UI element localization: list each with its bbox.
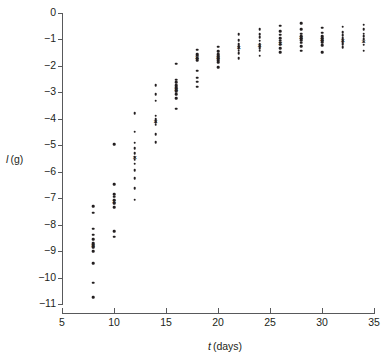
data-point	[154, 93, 157, 96]
x-tick-label: 5	[42, 317, 82, 327]
data-point	[92, 205, 95, 208]
y-tick-label: −9	[26, 245, 56, 255]
group-mean-marker	[360, 37, 367, 44]
x-axis-title: t (days)	[190, 340, 260, 352]
data-point	[92, 227, 95, 230]
y-tick	[58, 304, 62, 305]
x-tick	[62, 308, 63, 313]
data-point	[238, 33, 241, 36]
y-tick-label: −6	[26, 166, 56, 176]
y-tick	[58, 172, 62, 173]
data-point	[196, 69, 199, 72]
y-tick-label: −7	[26, 192, 56, 202]
x-tick-label: 30	[302, 317, 342, 327]
data-point	[113, 143, 116, 146]
x-axis-line	[62, 313, 375, 314]
group-mean-marker	[215, 54, 222, 61]
x-tick-label: 10	[94, 317, 134, 327]
data-point	[134, 187, 137, 190]
data-point	[134, 130, 137, 133]
data-point	[92, 282, 95, 285]
group-mean-marker	[339, 36, 346, 43]
data-point	[196, 80, 199, 83]
group-mean-marker	[111, 197, 118, 204]
group-mean-marker	[194, 53, 201, 60]
y-tick-label: −3	[26, 86, 56, 96]
data-point	[134, 141, 137, 144]
data-point	[362, 28, 365, 31]
data-point	[279, 51, 282, 54]
data-point	[175, 97, 178, 100]
group-mean-marker	[235, 44, 242, 51]
group-mean-marker	[90, 242, 97, 249]
group-mean-marker	[256, 42, 263, 49]
y-tick	[58, 251, 62, 252]
y-tick-label: −5	[26, 139, 56, 149]
y-axis-unit: (g)	[10, 153, 23, 165]
group-mean-marker	[131, 154, 138, 161]
data-point	[113, 235, 116, 238]
data-point	[342, 46, 345, 49]
data-point	[362, 24, 365, 27]
x-tick-label: 25	[250, 317, 290, 327]
data-point	[238, 57, 241, 60]
x-axis-symbol: t	[208, 340, 211, 352]
data-point	[134, 177, 137, 180]
data-point	[154, 100, 157, 103]
y-tick-label: −8	[26, 219, 56, 229]
y-tick	[58, 13, 62, 14]
data-point	[196, 77, 199, 80]
y-tick	[58, 145, 62, 146]
data-point	[342, 25, 345, 28]
y-axis-line	[62, 13, 63, 305]
x-tick	[322, 308, 323, 313]
scatter-plot-figure: 0−1−2−3−4−5−6−7−8−9−10−115101520253035l …	[0, 0, 387, 360]
data-point	[300, 49, 303, 52]
data-point	[362, 49, 365, 52]
data-point	[113, 230, 116, 233]
group-mean-marker	[173, 86, 180, 93]
data-point	[217, 66, 220, 69]
y-tick-label: −2	[26, 60, 56, 70]
data-point	[134, 198, 137, 201]
x-tick	[166, 308, 167, 313]
data-point	[134, 162, 137, 165]
data-point	[175, 62, 178, 65]
data-point	[134, 169, 137, 172]
data-point	[154, 84, 157, 87]
x-tick	[270, 308, 271, 313]
y-tick-label: −4	[26, 113, 56, 123]
y-axis-symbol: l	[6, 153, 8, 165]
data-point	[258, 55, 261, 58]
data-point	[258, 36, 261, 39]
y-tick	[58, 39, 62, 40]
data-point	[134, 147, 137, 150]
group-mean-marker	[298, 34, 305, 41]
y-tick-label: −11	[26, 298, 56, 308]
y-tick	[58, 225, 62, 226]
data-point	[92, 262, 95, 265]
data-point	[113, 183, 116, 186]
data-point	[300, 22, 303, 25]
x-tick	[218, 308, 219, 313]
x-tick	[374, 308, 375, 313]
y-tick	[58, 198, 62, 199]
data-point	[321, 26, 324, 29]
y-tick-label: −1	[26, 33, 56, 43]
data-point	[238, 52, 241, 55]
data-point	[279, 30, 282, 33]
data-point	[342, 31, 345, 34]
data-point	[92, 211, 95, 214]
data-point	[321, 44, 324, 47]
x-tick-label: 20	[198, 317, 238, 327]
data-point	[175, 107, 178, 110]
data-point	[196, 48, 199, 51]
data-point	[258, 28, 261, 31]
y-tick-label: 0	[26, 7, 56, 17]
x-tick-label: 15	[146, 317, 186, 327]
data-point	[217, 46, 220, 49]
group-mean-marker	[152, 117, 159, 124]
data-point	[300, 28, 303, 31]
data-point	[279, 33, 282, 36]
y-tick-label: −10	[26, 272, 56, 282]
